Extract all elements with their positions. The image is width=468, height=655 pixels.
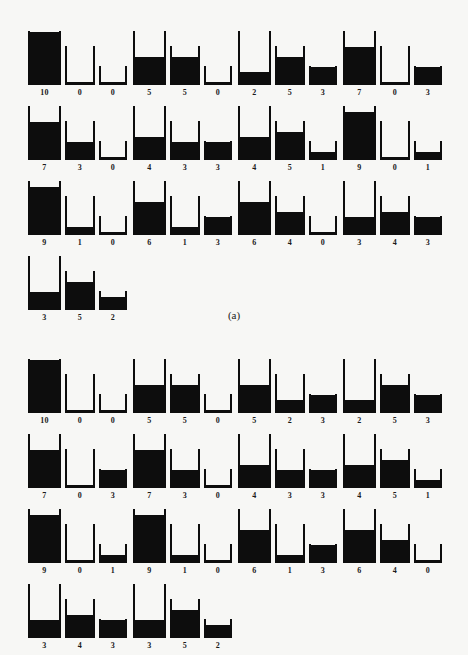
jug-amount-label: 3 (321, 491, 325, 500)
jug-amount-label: 1 (426, 163, 430, 172)
state-row: 730433451901 (28, 97, 448, 172)
jug-fill (309, 545, 337, 563)
jug-vessel (99, 619, 127, 638)
jug: 1 (65, 196, 95, 247)
jug-amount-label: 3 (147, 641, 151, 650)
jug-fill (28, 450, 61, 488)
jug-fill (99, 555, 127, 563)
jug-state: 451 (238, 106, 343, 172)
jug-vessel (65, 121, 95, 160)
jug-fill (133, 385, 166, 413)
state-row: 910613640343 (28, 172, 448, 247)
jug-vessel (309, 544, 337, 563)
jug-vessel (238, 509, 271, 563)
jug: 9 (28, 509, 61, 575)
jug-amount-label: 2 (216, 641, 220, 650)
jug-amount-label: 5 (252, 416, 256, 425)
jug-floor (65, 485, 95, 488)
jug: 6 (343, 509, 376, 575)
jug-fill (133, 202, 166, 235)
jug-state: 253 (343, 359, 448, 425)
jug-vessel (133, 31, 166, 85)
jug-vessel (99, 394, 127, 413)
jug-fill (99, 470, 127, 488)
state-rows: 1000550523253703730433451901910613640343… (28, 350, 448, 650)
jug: 3 (309, 66, 337, 97)
jug-state: 703 (28, 434, 133, 500)
jug-fill (133, 620, 166, 638)
jug-amount-label: 7 (42, 163, 46, 172)
jug: 7 (28, 434, 61, 500)
jug-wall-right (408, 46, 410, 85)
jug-fill (343, 112, 376, 160)
jug-fill (343, 217, 376, 235)
jug-fill (133, 515, 166, 563)
jug-fill (238, 137, 271, 160)
jug-fill (238, 202, 271, 235)
jug-amount-label: 1 (183, 566, 187, 575)
jug-amount-label: 9 (357, 163, 361, 172)
jug: 4 (238, 434, 271, 500)
jug-amount-label: 5 (288, 88, 292, 97)
jug-vessel (204, 66, 232, 85)
jug-vessel (238, 106, 271, 160)
jug-fill (414, 395, 442, 413)
jug-amount-label: 3 (111, 641, 115, 650)
jug: 0 (414, 544, 442, 575)
jug-floor (99, 82, 127, 85)
jug-floor (309, 232, 337, 235)
jug-floor (99, 410, 127, 413)
jug-amount-label: 5 (288, 163, 292, 172)
state-row: 1000550253703 (28, 22, 448, 97)
jug-amount-label: 1 (321, 163, 325, 172)
jug-floor (204, 560, 232, 563)
jug-amount-label: 3 (42, 641, 46, 650)
jug: 10 (28, 359, 61, 425)
jug: 7 (28, 106, 61, 172)
jug-fill (170, 385, 200, 413)
jug: 3 (99, 619, 127, 650)
jug-amount-label: 0 (111, 163, 115, 172)
jug-state: 640 (343, 509, 448, 575)
jug-amount-label: 9 (42, 238, 46, 247)
jug-state: 730 (133, 434, 238, 500)
jug-fill (275, 132, 305, 160)
jug-vessel (309, 66, 337, 85)
jug-vessel (28, 181, 61, 235)
jug-vessel (414, 141, 442, 160)
jug-vessel (28, 106, 61, 160)
jug-fill (65, 142, 95, 160)
jug-state: 523 (238, 359, 343, 425)
jug-amount-label: 0 (393, 163, 397, 172)
jug-vessel (133, 359, 166, 413)
jug-fill (380, 212, 410, 235)
jug-vessel (133, 181, 166, 235)
jug: 0 (99, 394, 127, 425)
jug-amount-label: 5 (183, 88, 187, 97)
jug-state: 910 (133, 509, 238, 575)
jug-vessel (309, 469, 337, 488)
state-row: 901910613640 (28, 500, 448, 575)
jug: 0 (65, 374, 95, 425)
jug-amount-label: 6 (252, 238, 256, 247)
jug: 1 (275, 524, 305, 575)
jug-fill (380, 540, 410, 563)
jug-amount-label: 0 (216, 416, 220, 425)
jug-state: 433 (133, 106, 238, 172)
jug-fill (65, 282, 95, 310)
jug-floor (65, 82, 95, 85)
jug: 2 (275, 374, 305, 425)
jug-amount-label: 0 (426, 566, 430, 575)
jug-amount-label: 7 (42, 491, 46, 500)
jug-fill (414, 480, 442, 488)
jug: 3 (133, 584, 166, 650)
panel-caption: (a) (0, 309, 468, 321)
jug-floor (65, 560, 95, 563)
jug-amount-label: 1 (183, 238, 187, 247)
state-row: 343352 (28, 575, 448, 650)
jug-fill (170, 142, 200, 160)
jug-vessel (343, 434, 376, 488)
jug-fill (275, 555, 305, 563)
jug-fill (238, 385, 271, 413)
jug-amount-label: 5 (183, 416, 187, 425)
